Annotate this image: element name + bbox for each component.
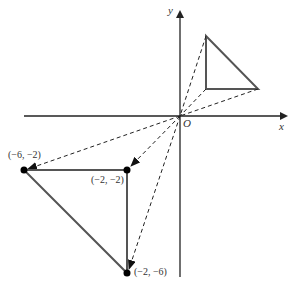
vertex-point [21, 167, 28, 174]
dilation-rays [28, 36, 258, 269]
coordinate-diagram: x y O (−6, −2) (−2, −2) (−2, −6) [0, 0, 297, 289]
origin-label: O [183, 117, 191, 129]
vertex-label: (−2, −6) [134, 266, 167, 278]
vertex-label: (−6, −2) [8, 149, 41, 161]
image-triangle [24, 170, 127, 273]
x-axis-label: x [278, 120, 284, 132]
vertex-point [124, 270, 131, 277]
vertex-label: (−2, −2) [91, 174, 124, 186]
original-triangle [206, 36, 258, 89]
y-axis-label: y [167, 4, 173, 16]
vertex-point [124, 167, 131, 174]
